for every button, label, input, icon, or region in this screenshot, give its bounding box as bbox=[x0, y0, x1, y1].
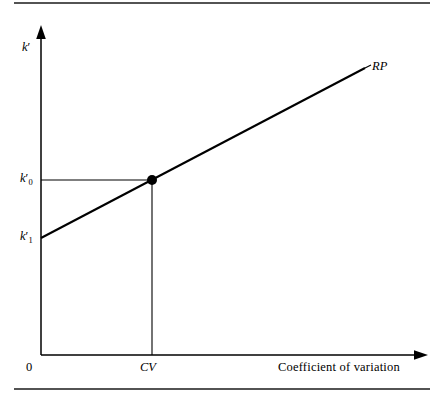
y-axis bbox=[36, 25, 46, 355]
equilibrium-point-marker bbox=[147, 175, 157, 185]
y-tick-label-k0: k′0 bbox=[20, 172, 33, 186]
x-tick-label-cv: CV bbox=[140, 361, 156, 374]
y-tick-k0-subscript: 0 bbox=[28, 177, 33, 187]
x-axis bbox=[41, 350, 428, 360]
y-tick-label-k1: k′1 bbox=[20, 230, 33, 244]
rp-series-label: RP bbox=[372, 60, 387, 73]
x-axis-arrowhead bbox=[414, 350, 428, 360]
y-axis-label-prime: ′ bbox=[28, 40, 31, 54]
origin-label: 0 bbox=[26, 361, 32, 374]
y-tick-k1-subscript: 1 bbox=[28, 235, 33, 245]
risk-premium-diagram: k′ k′0 k′1 0 CV Coefficient of variation… bbox=[0, 0, 443, 397]
y-axis-arrowhead bbox=[36, 25, 46, 39]
x-axis-title: Coefficient of variation bbox=[278, 361, 400, 374]
rp-label-leader bbox=[365, 65, 371, 68]
y-axis-label: k′ bbox=[22, 41, 30, 54]
rp-line bbox=[41, 68, 365, 238]
